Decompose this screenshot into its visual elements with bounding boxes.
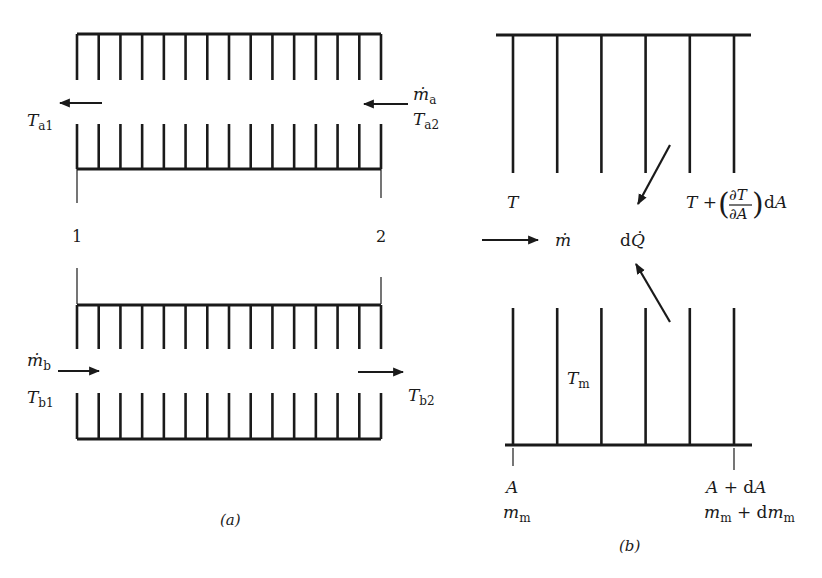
station-1-label: 1 (72, 227, 82, 246)
heat-transfer-label: dQ̇ (620, 230, 645, 250)
right-mass-label: mm + dmm (704, 502, 796, 525)
lower-finned-passage (77, 305, 381, 439)
panel-a-caption: (a) (220, 511, 241, 529)
matrix-temp-label: Tm (567, 368, 590, 391)
element-bottom-fins (513, 308, 734, 445)
upper-passage-top-fins (77, 34, 381, 80)
regenerator-figure: Ta1 ṁa Ta2 1 2 ṁb Tb1 Tb2 (a) T T + (0, 0, 822, 578)
fluid-a-outlet-temp-label: Ta1 (27, 110, 53, 133)
right-area-label: A + dA (704, 477, 767, 497)
fluid-b-inlet-temp-label: Tb1 (27, 387, 54, 410)
panel-b: T T + ( ∂T ∂A ) dA ṁ dQ̇ Tm A mm A + dA … (482, 35, 796, 555)
fluid-a-inlet-temp-label: Ta2 (413, 109, 439, 132)
heat-in-arrow-lower (636, 264, 670, 322)
fluid-b-outlet-temp-label: Tb2 (408, 385, 435, 408)
lower-passage-bottom-fins (77, 393, 381, 439)
svg-text:∂A: ∂A (729, 205, 748, 223)
left-mass-label: mm (503, 502, 531, 525)
left-area-label: A (504, 477, 518, 497)
outlet-temp-expression: T + ( ∂T ∂A ) dA (686, 186, 787, 223)
upper-finned-passage (77, 34, 381, 169)
inlet-temp-label: T (507, 192, 520, 212)
station-2-label: 2 (376, 227, 386, 246)
svg-text:(: ( (718, 186, 730, 221)
element-top-fins (513, 35, 734, 173)
lower-passage-top-fins (77, 305, 381, 349)
svg-text:T +: T + (686, 192, 717, 212)
svg-text:): ) (752, 186, 764, 221)
upper-passage-bottom-fins (77, 124, 381, 169)
fluid-b-massflow-label: ṁb (27, 350, 51, 373)
svg-text:dA: dA (764, 192, 787, 212)
panel-a: Ta1 ṁa Ta2 1 2 ṁb Tb1 Tb2 (a) (27, 34, 439, 529)
mass-flow-label: ṁ (555, 230, 571, 250)
svg-text:∂T: ∂T (729, 186, 748, 204)
panel-b-caption: (b) (619, 537, 640, 555)
heat-in-arrow-upper (638, 145, 670, 204)
fluid-a-massflow-label: ṁa (413, 84, 436, 107)
